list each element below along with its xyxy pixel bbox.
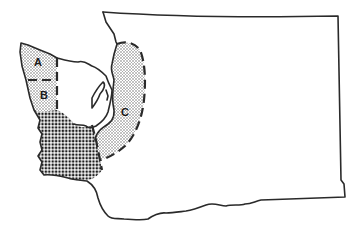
washington-region-map: A B C (0, 0, 360, 230)
region-southwest-area (34, 110, 102, 181)
state-outline (20, 12, 345, 220)
region-c-label: C (121, 106, 129, 118)
region-a-label: A (34, 56, 42, 68)
region-c-area (95, 42, 145, 160)
map-svg: A B C (0, 0, 360, 230)
inlet-shape (92, 82, 104, 108)
region-b-label: B (40, 89, 48, 101)
small-island (106, 90, 108, 100)
